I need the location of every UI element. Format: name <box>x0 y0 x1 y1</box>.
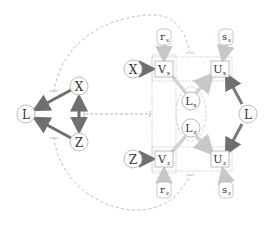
node-Ux: U x <box>211 61 229 77</box>
svg-text:s: s <box>222 184 227 195</box>
svg-text:s: s <box>222 31 227 42</box>
node-sz: s z <box>219 182 233 198</box>
node-Vz: V z <box>155 151 173 167</box>
node-sx: s x <box>219 29 233 45</box>
svg-text:z: z <box>223 159 226 166</box>
node-Z: Z <box>70 133 88 151</box>
node-rx: r x <box>157 29 171 45</box>
svg-text:V: V <box>157 63 167 76</box>
node-L: L <box>17 105 35 123</box>
svg-text:z: z <box>228 190 231 196</box>
dashed-horizontal-link <box>84 111 151 117</box>
svg-text:X: X <box>129 63 138 77</box>
svg-text:r: r <box>160 31 165 42</box>
svg-text:L: L <box>22 108 30 122</box>
svg-text:U: U <box>213 63 222 76</box>
svg-text:X: X <box>75 80 84 94</box>
node-rz: r z <box>157 182 171 198</box>
svg-text:Z: Z <box>75 136 83 150</box>
node-Lx: L x <box>182 92 200 110</box>
node-Vx: V x <box>155 61 173 77</box>
node-Uz: U z <box>211 151 229 167</box>
svg-text:z: z <box>193 128 196 135</box>
svg-text:V: V <box>157 153 167 166</box>
svg-text:L: L <box>185 122 193 135</box>
left-graph-edges <box>36 90 79 138</box>
svg-text:Z: Z <box>129 153 137 167</box>
svg-text:r: r <box>160 184 165 195</box>
node-Lz: L z <box>182 119 200 137</box>
svg-text:z: z <box>166 190 169 196</box>
svg-text:z: z <box>167 159 170 166</box>
svg-text:L: L <box>244 108 252 122</box>
causal-diagram: X Z L X Z L L x L z V x U x <box>0 0 270 225</box>
node-L-right: L <box>239 105 257 123</box>
node-Z-right: Z <box>124 150 142 168</box>
svg-text:L: L <box>185 95 193 108</box>
svg-text:U: U <box>213 153 222 166</box>
node-X-right: X <box>124 60 142 78</box>
node-X: X <box>70 77 88 95</box>
dashed-arc-bottom <box>50 137 194 210</box>
